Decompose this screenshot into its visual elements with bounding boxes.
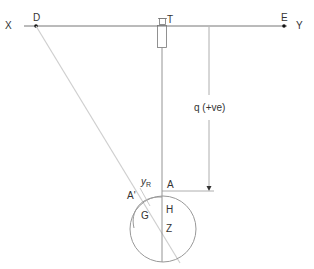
label-y: Y — [296, 21, 303, 31]
instrument-body — [158, 26, 167, 48]
point-e — [282, 24, 286, 28]
label-yr: yR — [141, 177, 151, 188]
diagram-canvas — [0, 0, 314, 269]
label-t: T — [167, 15, 173, 25]
label-d: D — [33, 13, 40, 23]
instrument-top — [160, 19, 166, 25]
label-q: q (+ve) — [194, 103, 225, 113]
diagonal-line — [36, 26, 180, 263]
label-a-prime: A' — [127, 191, 136, 201]
label-a: A — [167, 180, 174, 190]
label-z: Z — [166, 224, 172, 234]
label-h: H — [166, 205, 173, 215]
label-g: G — [141, 211, 149, 221]
q-arrowhead-icon — [207, 186, 212, 191]
main-circle — [130, 196, 196, 262]
label-e: E — [281, 13, 288, 23]
label-x: X — [5, 21, 12, 31]
